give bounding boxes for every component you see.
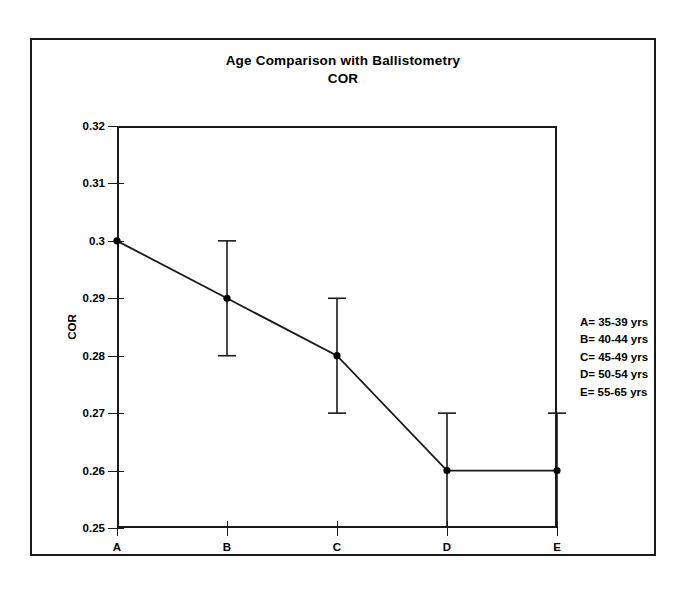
y-axis-tick-inner <box>117 528 124 529</box>
x-axis-label: D <box>443 541 451 553</box>
figure-border: Age Comparison with Ballistometry COR CO… <box>30 38 656 556</box>
chart-title: Age Comparison with Ballistometry <box>32 52 654 70</box>
y-axis-label: 0.29 <box>83 292 105 304</box>
data-point-marker <box>113 237 120 244</box>
x-axis-tick <box>227 528 228 536</box>
y-axis-label: 0.32 <box>83 120 105 132</box>
x-axis-tick <box>337 528 338 536</box>
y-axis-title: COR <box>66 314 78 340</box>
x-axis-tick <box>557 528 558 536</box>
y-axis-tick <box>108 471 117 472</box>
y-axis-label: 0.26 <box>83 465 105 477</box>
y-axis-label: 0.25 <box>83 522 105 534</box>
x-axis-tick <box>447 528 448 536</box>
y-axis-tick <box>108 413 117 414</box>
data-point-marker <box>223 295 230 302</box>
legend-entry: A= 35-39 yrs <box>580 314 648 331</box>
data-point-marker <box>443 467 450 474</box>
data-point-marker <box>553 467 560 474</box>
y-axis-label: 0.28 <box>83 350 105 362</box>
x-axis-label: C <box>333 541 341 553</box>
y-axis-label: 0.3 <box>89 235 105 247</box>
legend: A= 35-39 yrsB= 40-44 yrsC= 45-49 yrsD= 5… <box>580 314 648 401</box>
x-axis-label: A <box>113 541 121 553</box>
y-axis-tick <box>108 183 117 184</box>
y-axis-label: 0.27 <box>83 407 105 419</box>
y-axis-tick <box>108 126 117 127</box>
chart-subtitle: COR <box>32 70 654 88</box>
y-axis-tick <box>108 298 117 299</box>
title-block: Age Comparison with Ballistometry COR <box>32 52 654 88</box>
legend-entry: B= 40-44 yrs <box>580 331 648 348</box>
y-axis-tick <box>108 528 117 529</box>
legend-entry: C= 45-49 yrs <box>580 349 648 366</box>
x-axis-label: E <box>553 541 561 553</box>
legend-entry: E= 55-65 yrs <box>580 384 648 401</box>
data-point-marker <box>333 352 340 359</box>
x-axis-tick <box>117 528 118 536</box>
plot-area: COR 0.250.260.270.280.290.30.310.32 ABCD… <box>117 126 557 528</box>
x-axis-label: B <box>223 541 231 553</box>
y-axis-tick <box>108 356 117 357</box>
legend-entry: D= 50-54 yrs <box>580 366 648 383</box>
data-layer <box>117 126 557 528</box>
y-axis-label: 0.31 <box>83 177 105 189</box>
